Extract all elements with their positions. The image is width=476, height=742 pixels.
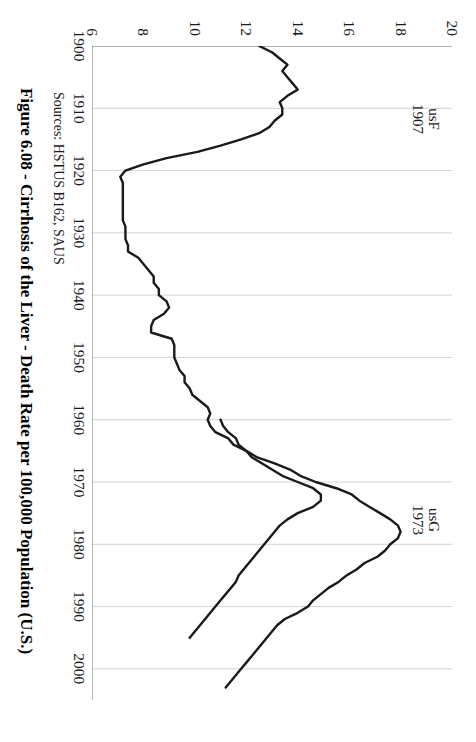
chart-svg — [92, 46, 452, 700]
annotation-usg-year: 1973 — [410, 505, 426, 535]
x-tick-label-1910: 1910 — [70, 93, 88, 124]
y-tick-label-12: 12 — [237, 21, 255, 37]
y-tick-label-18: 18 — [392, 21, 410, 37]
y-tick-label-16: 16 — [340, 21, 358, 37]
x-axis-tick-labels: 1900191019201930194019501960197019801990… — [66, 46, 88, 700]
y-axis-tick-labels: 68101214161820 — [92, 0, 452, 42]
x-tick-label-1960: 1960 — [70, 404, 88, 435]
source-note: Sources: HSTUS B162, SAUS — [50, 92, 66, 265]
annotation-usf: usF 1907 — [410, 104, 442, 134]
annotation-usg-code: usG — [426, 505, 442, 535]
y-tick-label-8: 8 — [134, 28, 152, 36]
data-series-group — [120, 46, 400, 688]
plot-area — [92, 46, 452, 700]
axis-lines — [92, 46, 452, 700]
figure-body: 68101214161820 1900191019201930194019501… — [0, 0, 476, 742]
annotation-usf-code: usF — [426, 104, 442, 134]
x-tick-label-1980: 1980 — [70, 529, 88, 560]
annotation-usf-year: 1907 — [410, 104, 426, 134]
figure-page: 68101214161820 1900191019201930194019501… — [0, 0, 476, 742]
y-tick-label-10: 10 — [186, 21, 204, 37]
gridlines — [92, 46, 452, 669]
x-tick-label-1920: 1920 — [70, 155, 88, 186]
x-tick-label-1930: 1930 — [70, 217, 88, 248]
y-tick-label-20: 20 — [443, 21, 461, 37]
data-line-usg — [190, 420, 321, 638]
x-tick-label-1900: 1900 — [70, 31, 88, 62]
x-tick-label-1950: 1950 — [70, 342, 88, 373]
annotation-usg: usG 1973 — [410, 505, 442, 535]
x-tick-label-1970: 1970 — [70, 467, 88, 498]
data-line-usf — [120, 46, 400, 688]
x-tick-label-1940: 1940 — [70, 280, 88, 311]
y-tick-label-14: 14 — [289, 21, 307, 37]
x-tick-label-2000: 2000 — [70, 653, 88, 684]
figure-caption: Figure 6.08 - Cirrhosis of the Liver - D… — [16, 0, 36, 742]
rotated-figure-container: 68101214161820 1900191019201930194019501… — [0, 0, 476, 742]
x-tick-label-1990: 1990 — [70, 591, 88, 622]
